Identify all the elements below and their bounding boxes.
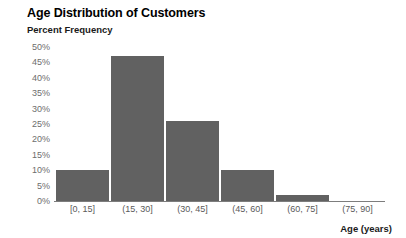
x-axis-label: Age (years) <box>340 223 392 234</box>
bar[interactable] <box>110 56 165 201</box>
y-tick-label: 0% <box>37 196 50 206</box>
bar-cell <box>55 47 110 201</box>
x-tick-label: (30, 45] <box>165 204 220 220</box>
y-tick-label: 10% <box>32 165 50 175</box>
y-tick-label: 50% <box>32 42 50 52</box>
y-tick-label: 15% <box>32 150 50 160</box>
chart-title: Age Distribution of Customers <box>27 6 205 20</box>
x-axis-line <box>54 201 385 202</box>
bar-cell <box>220 47 275 201</box>
bar-cell <box>330 47 385 201</box>
x-tick-label: (45, 60] <box>220 204 275 220</box>
chart-figure: Age Distribution of Customers Percent Fr… <box>0 0 406 238</box>
bar-cell <box>165 47 220 201</box>
bar-cell <box>275 47 330 201</box>
x-tick-label: (15, 30] <box>110 204 165 220</box>
x-tick-label: (75, 90] <box>330 204 385 220</box>
y-tick-label: 45% <box>32 57 50 67</box>
x-tick-label: (60, 75] <box>275 204 330 220</box>
y-tick-label: 30% <box>32 104 50 114</box>
y-tick-label: 35% <box>32 88 50 98</box>
y-tick-label: 40% <box>32 73 50 83</box>
bar-cell <box>110 47 165 201</box>
bar[interactable] <box>55 170 110 201</box>
bar[interactable] <box>220 170 275 201</box>
x-axis-tick-labels: [0, 15] (15, 30] (30, 45] (45, 60] (60, … <box>55 204 385 220</box>
x-tick-label: [0, 15] <box>55 204 110 220</box>
y-axis-tick-labels: 50% 45% 40% 35% 30% 25% 20% 15% 10% 5% 0… <box>0 0 50 238</box>
y-tick-label: 20% <box>32 134 50 144</box>
bar[interactable] <box>165 121 220 201</box>
y-tick-label: 25% <box>32 119 50 129</box>
bar-series <box>55 47 385 201</box>
plot-area <box>55 47 385 201</box>
y-tick-label: 5% <box>37 181 50 191</box>
